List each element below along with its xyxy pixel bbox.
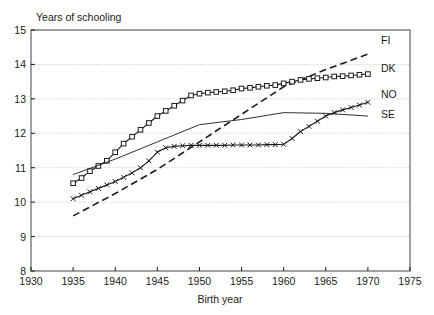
marker-DK-1949 bbox=[189, 93, 194, 98]
chart-figure: 1930193519401945195019551960196519701975… bbox=[0, 0, 434, 315]
y-tick-label-11: 11 bbox=[15, 162, 26, 174]
plot-background bbox=[31, 30, 410, 271]
marker-DK-1944 bbox=[147, 121, 152, 126]
series-label-SE: SE bbox=[381, 108, 395, 120]
marker-DK-1936 bbox=[79, 176, 84, 181]
marker-DK-1964 bbox=[315, 76, 320, 81]
x-tick-label-1975: 1975 bbox=[398, 275, 422, 287]
x-tick-label-1970: 1970 bbox=[356, 275, 380, 287]
y-tick-label-14: 14 bbox=[14, 58, 26, 70]
marker-DK-1946 bbox=[163, 109, 168, 114]
x-axis-tick-labels: 1930193519401945195019551960196519701975 bbox=[19, 275, 422, 287]
y-tick-label-10: 10 bbox=[14, 196, 26, 208]
x-tick-label-1960: 1960 bbox=[272, 275, 296, 287]
marker-DK-1965 bbox=[323, 75, 328, 80]
y-axis-tick-labels: 89101112131415 bbox=[14, 24, 26, 277]
marker-DK-1950 bbox=[197, 91, 202, 96]
marker-DK-1966 bbox=[332, 74, 337, 79]
marker-DK-1959 bbox=[273, 83, 278, 88]
marker-DK-1970 bbox=[366, 72, 371, 77]
y-tick-label-15: 15 bbox=[14, 24, 26, 36]
marker-DK-1958 bbox=[265, 83, 270, 88]
x-tick-label-1945: 1945 bbox=[146, 275, 170, 287]
series-label-FI: FI bbox=[381, 34, 390, 46]
marker-DK-1967 bbox=[340, 74, 345, 79]
marker-DK-1937 bbox=[88, 169, 93, 174]
y-axis-title: Years of schooling bbox=[36, 11, 122, 23]
marker-DK-1961 bbox=[290, 79, 295, 84]
marker-DK-1955 bbox=[239, 86, 244, 91]
x-tick-label-1950: 1950 bbox=[188, 275, 212, 287]
marker-DK-1945 bbox=[155, 114, 160, 119]
marker-DK-1951 bbox=[206, 90, 211, 95]
x-tick-label-1935: 1935 bbox=[61, 275, 85, 287]
marker-DK-1956 bbox=[248, 86, 253, 91]
marker-DK-1962 bbox=[298, 78, 303, 83]
series-label-DK: DK bbox=[381, 62, 396, 74]
marker-DK-1940 bbox=[113, 150, 118, 155]
marker-DK-1968 bbox=[349, 73, 354, 78]
x-axis-title: Birth year bbox=[198, 293, 243, 305]
series-label-NO: NO bbox=[381, 88, 397, 100]
marker-DK-1947 bbox=[172, 103, 177, 108]
y-tick-label-9: 9 bbox=[20, 231, 26, 243]
y-tick-label-13: 13 bbox=[14, 93, 26, 105]
marker-DK-1943 bbox=[138, 128, 143, 133]
marker-DK-1969 bbox=[357, 72, 362, 77]
y-tick-label-12: 12 bbox=[14, 127, 26, 139]
marker-DK-1952 bbox=[214, 90, 219, 95]
x-tick-label-1940: 1940 bbox=[104, 275, 128, 287]
x-tick-label-1955: 1955 bbox=[230, 275, 254, 287]
marker-DK-1935 bbox=[71, 181, 76, 186]
marker-DK-1942 bbox=[130, 134, 135, 139]
years-of-schooling-line-chart: 1930193519401945195019551960196519701975… bbox=[0, 0, 434, 315]
marker-DK-1960 bbox=[281, 81, 286, 86]
marker-DK-1953 bbox=[222, 89, 227, 94]
x-tick-label-1965: 1965 bbox=[314, 275, 338, 287]
marker-DK-1941 bbox=[121, 141, 126, 146]
marker-DK-1963 bbox=[307, 77, 312, 82]
marker-DK-1957 bbox=[256, 85, 261, 90]
marker-DK-1948 bbox=[180, 98, 185, 103]
y-tick-label-8: 8 bbox=[20, 265, 26, 277]
marker-DK-1954 bbox=[231, 88, 236, 93]
